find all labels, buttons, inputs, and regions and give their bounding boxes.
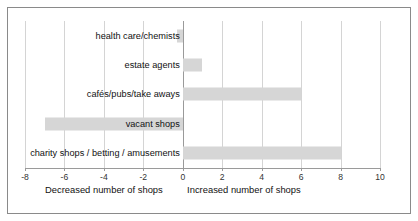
tick-label: 4 [259,172,264,182]
category-label: vacant shops [123,118,183,130]
tick-label: 0 [180,172,185,182]
bar [183,88,301,101]
bar-row: charity shops / betting / amusements [25,139,380,168]
tick-label: 6 [299,172,304,182]
tick-mark [104,168,105,171]
bar [183,147,341,160]
chart-figure: health care/chemistsestate agentscafés/p… [7,7,411,214]
axis-caption: Decreased number of shops [45,184,163,195]
category-label: charity shops / betting / amusements [27,147,183,159]
bar-row: health care/chemists [25,21,380,50]
tick-label: 2 [220,172,225,182]
tick-mark [25,168,26,171]
tick-label: -6 [61,172,69,182]
tick-mark [301,168,302,171]
bar-row: cafés/pubs/take aways [25,80,380,109]
tick-label: -4 [100,172,108,182]
axis-caption: Increased number of shops [187,184,301,195]
x-axis-ticks: -8-6-4-20246810 [25,168,380,184]
bar-row: estate agents [25,50,380,79]
tick-label: -8 [21,172,29,182]
tick-label: -2 [140,172,148,182]
bar-row: vacant shops [25,109,380,138]
category-label: cafés/pubs/take aways [84,88,183,100]
tick-mark [341,168,342,171]
tick-mark [262,168,263,171]
tick-mark [143,168,144,171]
tick-label: 8 [338,172,343,182]
category-label: health care/chemists [93,30,183,42]
tick-mark [222,168,223,171]
tick-mark [64,168,65,171]
tick-mark [380,168,381,171]
plot-area: health care/chemistsestate agentscafés/p… [25,21,380,168]
gridline [380,21,381,168]
axis-captions: Decreased number of shopsIncreased numbe… [8,184,410,200]
bar [183,59,203,72]
tick-mark [183,168,184,171]
tick-label: 10 [375,172,385,182]
category-label: estate agents [122,59,183,71]
